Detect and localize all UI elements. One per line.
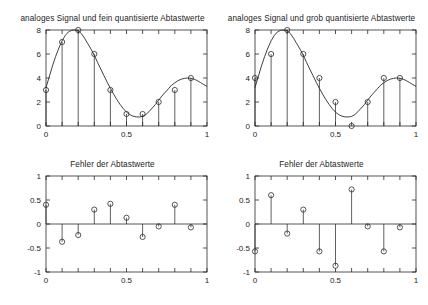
y-tick-label: 1: [246, 172, 251, 181]
x-tick-label: 1: [205, 276, 210, 285]
plot-top-left: 00.5102468: [10, 14, 215, 148]
panel-bottom-left: Fehler der Abtastwerte 00.51-1-0.500.51: [10, 160, 215, 294]
x-tick-label: 0.5: [330, 276, 342, 285]
y-tick-label: -1: [34, 268, 42, 277]
x-tick-label: 0: [44, 276, 49, 285]
plot-bottom-left: 00.51-1-0.500.51: [10, 160, 215, 294]
x-tick-label: 1: [414, 276, 419, 285]
y-tick-label: 2: [37, 98, 42, 107]
y-tick-label: 4: [37, 74, 42, 83]
y-tick-label: 2: [246, 98, 251, 107]
y-tick-label: 8: [37, 26, 42, 35]
x-tick-label: 0: [44, 130, 49, 139]
y-tick-label: -0.5: [27, 244, 41, 253]
panel-bottom-right: Fehler der Abtastwerte 00.51-1-0.500.51: [219, 160, 424, 294]
y-tick-label: 0.5: [239, 196, 251, 205]
panel-top-right: analoges Signal und grob quantisierte Ab…: [219, 14, 424, 148]
x-tick-label: 1: [205, 130, 210, 139]
y-tick-label: 6: [246, 50, 251, 59]
y-tick-label: 0: [37, 220, 42, 229]
x-tick-label: 1: [414, 130, 419, 139]
x-tick-label: 0.5: [330, 130, 342, 139]
y-tick-label: 6: [37, 50, 42, 59]
y-tick-label: 0.5: [30, 196, 42, 205]
plot-bottom-right: 00.51-1-0.500.51: [219, 160, 424, 294]
x-tick-label: 0.5: [121, 276, 133, 285]
y-tick-label: 8: [246, 26, 251, 35]
y-tick-label: 0: [37, 122, 42, 131]
figure-canvas: analoges Signal und fein quantisierte Ab…: [0, 0, 428, 305]
plot-top-right: 00.5102468: [219, 14, 424, 148]
y-tick-label: -0.5: [236, 244, 250, 253]
y-tick-label: -1: [243, 268, 251, 277]
panel-top-left: analoges Signal und fein quantisierte Ab…: [10, 14, 215, 148]
x-tick-label: 0: [253, 130, 258, 139]
x-tick-label: 0: [253, 276, 258, 285]
signal-curve: [46, 30, 207, 117]
x-tick-label: 0.5: [121, 130, 133, 139]
y-tick-label: 0: [246, 220, 251, 229]
y-tick-label: 4: [246, 74, 251, 83]
y-tick-label: 1: [37, 172, 42, 181]
y-tick-label: 0: [246, 122, 251, 131]
